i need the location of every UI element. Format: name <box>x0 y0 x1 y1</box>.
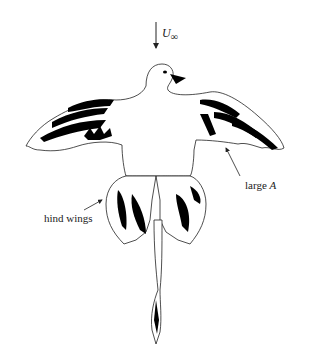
freestream-symbol: U <box>162 26 171 40</box>
hind-wings-label: hind wings <box>44 212 93 224</box>
dinosaur-body <box>26 64 284 344</box>
hind-wings-pointer <box>84 200 102 210</box>
large-A-pointer <box>226 148 240 176</box>
large-A-symbol: A <box>270 179 277 191</box>
freestream-velocity-label: U∞ <box>162 26 178 42</box>
freestream-subscript: ∞ <box>171 31 178 42</box>
large-A-label: large A <box>245 179 276 191</box>
large-A-text: large <box>245 179 270 191</box>
